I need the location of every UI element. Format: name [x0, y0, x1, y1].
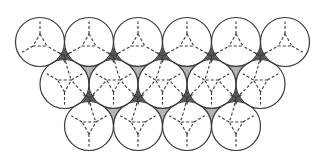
sphere-circle: [40, 60, 89, 109]
sphere-circle: [16, 18, 65, 67]
dashed-arm: [194, 116, 205, 122]
dashed-arm: [194, 74, 205, 80]
dashed-connector: [145, 46, 163, 56]
dashed-connector: [96, 46, 114, 56]
dashed-triangle: [58, 80, 72, 92]
dashed-triangle: [180, 34, 194, 46]
dashed-arm: [22, 46, 33, 52]
dashed-connector: [65, 46, 83, 56]
close-packed-spheres-diagram: [0, 0, 328, 166]
sphere-circle: [261, 18, 310, 67]
dashed-triangle: [131, 122, 145, 134]
sphere-circle: [163, 102, 212, 151]
dashed-triangle: [131, 34, 145, 46]
dashed-arm: [218, 74, 229, 80]
dashed-arm: [292, 46, 303, 52]
dashed-arm: [145, 74, 156, 80]
dashed-connector: [47, 46, 65, 56]
dashed-arm: [169, 74, 180, 80]
sphere-circle: [212, 18, 261, 67]
sphere-circle: [236, 60, 285, 109]
dashed-arm: [218, 116, 229, 122]
dashed-triangle: [205, 80, 219, 92]
dashed-triangle: [82, 34, 96, 46]
dashed-triangle: [278, 34, 292, 46]
dashed-arm: [169, 116, 180, 122]
sphere-circle: [163, 18, 212, 67]
sphere-circle: [114, 102, 163, 151]
dashed-arm: [267, 74, 278, 80]
dashed-connector: [212, 46, 230, 56]
dashed-arm: [120, 116, 131, 122]
dashed-triangle: [107, 80, 121, 92]
dashed-triangle: [33, 34, 47, 46]
dashed-triangle: [156, 80, 170, 92]
sphere-circle: [89, 60, 138, 109]
dashed-triangle: [82, 122, 96, 134]
sphere-circle: [187, 60, 236, 109]
sphere-circle: [212, 102, 261, 151]
sphere-circle: [65, 18, 114, 67]
dashed-arm: [243, 74, 254, 80]
dashed-connector: [261, 46, 279, 56]
dashed-arm: [47, 74, 58, 80]
sphere-circle: [138, 60, 187, 109]
dashed-triangle: [180, 122, 194, 134]
dashed-triangle: [229, 122, 243, 134]
dashed-connector: [243, 46, 261, 56]
sphere-circle: [114, 18, 163, 67]
dashed-arm: [120, 74, 131, 80]
dashed-arm: [71, 116, 82, 122]
dashed-arm: [71, 74, 82, 80]
dashed-connector: [114, 46, 132, 56]
dashed-arm: [96, 116, 107, 122]
dashed-triangle: [254, 80, 268, 92]
sphere-circle: [65, 102, 114, 151]
dashed-arm: [96, 74, 107, 80]
dashed-connector: [163, 46, 181, 56]
dashed-arm: [243, 116, 254, 122]
dashed-connector: [194, 46, 212, 56]
dashed-triangle: [229, 34, 243, 46]
dashed-arm: [145, 116, 156, 122]
